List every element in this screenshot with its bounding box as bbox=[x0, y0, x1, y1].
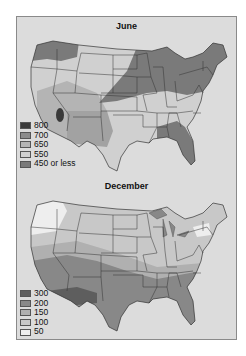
legend-swatch bbox=[20, 309, 31, 316]
legend-swatch bbox=[20, 290, 31, 297]
figure-frame: June bbox=[16, 16, 237, 340]
legend-swatch bbox=[20, 151, 31, 158]
legend-swatch bbox=[20, 319, 31, 326]
december-us-map bbox=[17, 191, 236, 337]
legend-swatch bbox=[20, 132, 31, 139]
june-legend: 800 700 650 550 450 or less bbox=[20, 121, 76, 169]
legend-swatch bbox=[20, 300, 31, 307]
legend-swatch bbox=[20, 122, 31, 129]
legend-swatch bbox=[20, 329, 31, 336]
legend-item: 450 or less bbox=[20, 159, 76, 169]
legend-swatch bbox=[20, 141, 31, 148]
legend-item: 50 bbox=[20, 327, 48, 337]
june-title: June bbox=[17, 21, 236, 31]
legend-swatch bbox=[20, 161, 31, 168]
december-title: December bbox=[17, 181, 236, 191]
december-legend: 300 200 150 100 50 bbox=[20, 289, 48, 337]
june-map-panel: June bbox=[17, 17, 236, 177]
december-map-panel: December bbox=[17, 177, 236, 339]
